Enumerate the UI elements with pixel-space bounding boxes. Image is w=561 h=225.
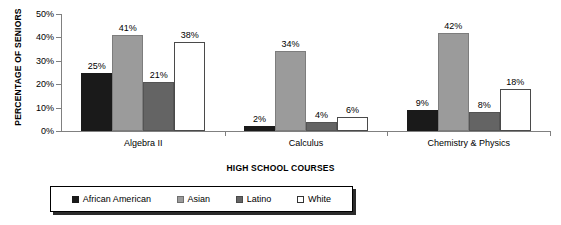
chart-legend: African AmericanAsianLatinoWhite (50, 186, 353, 212)
y-axis-tick-mark (56, 14, 61, 15)
bar-value-label: 25% (88, 61, 106, 71)
y-axis-tick-mark (56, 84, 61, 85)
bar-latino-chemistry-physics (469, 112, 500, 131)
category-label-calculus: Calculus (289, 138, 324, 148)
legend-item-white[interactable]: White (297, 194, 331, 204)
bar-asian-chemistry-physics (438, 33, 469, 131)
y-axis-tick-label: 20% (20, 79, 54, 89)
x-axis-tick-mark (550, 131, 551, 136)
bar-latino-algebra-ii (143, 82, 174, 131)
legend-swatch-icon (177, 196, 184, 203)
legend-label: Latino (247, 194, 272, 204)
bar-latino-calculus (306, 122, 337, 131)
y-axis-tick-mark (56, 108, 61, 109)
bar-value-label: 41% (119, 23, 137, 33)
bar-value-label: 9% (416, 98, 429, 108)
x-axis-tick-mark (387, 131, 388, 136)
x-axis-line (61, 131, 550, 132)
legend-label: African American (83, 194, 151, 204)
bar-african-american-chemistry-physics (407, 110, 438, 131)
bar-white-algebra-ii (174, 42, 205, 131)
bar-value-label: 21% (150, 70, 168, 80)
legend-swatch-icon (297, 196, 304, 203)
bar-value-label: 42% (444, 21, 462, 31)
legend-label: Asian (188, 194, 211, 204)
bar-asian-calculus (275, 51, 306, 131)
legend-item-african-american[interactable]: African American (72, 194, 151, 204)
y-axis-tick-mark (56, 61, 61, 62)
legend-item-latino[interactable]: Latino (236, 194, 272, 204)
bar-value-label: 8% (478, 100, 491, 110)
bar-value-label: 6% (346, 105, 359, 115)
y-axis-tick-label: 50% (20, 9, 54, 19)
bar-asian-algebra-ii (112, 35, 143, 131)
bar-value-label: 34% (281, 39, 299, 49)
bar-white-calculus (337, 117, 368, 131)
legend-label: White (308, 194, 331, 204)
y-axis-title: PERCENTAGE OF SENIORS (13, 0, 23, 137)
bar-value-label: 18% (506, 77, 524, 87)
y-axis-tick-label: 40% (20, 32, 54, 42)
x-axis-title: HIGH SCHOOL COURSES (0, 163, 561, 173)
legend-swatch-icon (72, 196, 79, 203)
y-axis-tick-mark (56, 37, 61, 38)
x-axis-tick-mark (225, 131, 226, 136)
bar-value-label: 4% (315, 110, 328, 120)
bar-value-label: 38% (181, 30, 199, 40)
category-label-algebra-ii: Algebra II (124, 138, 163, 148)
bar-chart: PERCENTAGE OF SENIORS 0%10%20%30%40%50% … (0, 0, 561, 225)
y-axis-tick-label: 0% (20, 126, 54, 136)
bar-african-american-calculus (244, 126, 275, 131)
category-label-chemistry-physics: Chemistry & Physics (427, 138, 510, 148)
legend-item-asian[interactable]: Asian (177, 194, 211, 204)
y-axis-tick-mark (56, 131, 61, 132)
y-axis-tick-label: 30% (20, 56, 54, 66)
legend-swatch-icon (236, 196, 243, 203)
y-axis-tick-label: 10% (20, 103, 54, 113)
bar-african-american-algebra-ii (81, 73, 112, 132)
bar-value-label: 2% (253, 114, 266, 124)
bar-white-chemistry-physics (500, 89, 531, 131)
